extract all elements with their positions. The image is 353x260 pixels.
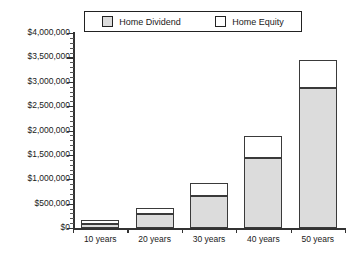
y-tick-mark	[67, 131, 74, 132]
y-tick-mark	[67, 82, 74, 83]
y-tick-minor	[70, 218, 75, 219]
y-tick-minor	[70, 101, 75, 102]
y-tick-minor	[70, 145, 75, 146]
x-axis-label: 20 years	[127, 234, 181, 244]
x-tick-mark	[345, 228, 346, 233]
bar-segment-home-equity[interactable]	[244, 136, 282, 158]
y-tick-minor	[70, 92, 75, 93]
x-axis-label: 30 years	[182, 234, 236, 244]
x-tick-mark	[73, 228, 74, 233]
y-tick-minor	[70, 165, 75, 166]
y-tick-minor	[70, 174, 75, 175]
y-tick-minor	[70, 135, 75, 136]
x-axis-label: 10 years	[73, 234, 127, 244]
y-tick-minor	[70, 121, 75, 122]
legend-entry-home-equity: Home Equity	[215, 16, 284, 27]
bar-segment-home-dividend[interactable]	[81, 224, 119, 228]
x-tick-mark	[291, 228, 292, 233]
y-tick-minor	[70, 170, 75, 171]
x-tick-mark	[127, 228, 128, 233]
bar-group[interactable]	[244, 136, 282, 228]
bar-segment-home-equity[interactable]	[190, 183, 228, 196]
y-tick-label: $4,000,000	[27, 27, 70, 37]
y-tick-label: $1,000,000	[27, 173, 70, 183]
y-tick-label: $3,500,000	[27, 51, 70, 61]
bar-segment-home-dividend[interactable]	[244, 158, 282, 228]
y-tick-minor	[70, 87, 75, 88]
y-tick-minor	[70, 184, 75, 185]
bar-group[interactable]	[190, 183, 228, 228]
y-tick-minor	[70, 77, 75, 78]
y-tick-minor	[70, 67, 75, 68]
y-tick-minor	[70, 126, 75, 127]
dividend-swatch-icon	[102, 16, 113, 27]
y-tick-minor	[70, 160, 75, 161]
y-tick-label: $2,000,000	[27, 125, 70, 135]
y-tick-label: $1,500,000	[27, 149, 70, 159]
chart-legend: Home Dividend Home Equity	[84, 11, 302, 32]
y-tick-minor	[70, 53, 75, 54]
bar-segment-home-equity[interactable]	[81, 220, 119, 224]
bar-segment-home-dividend[interactable]	[190, 196, 228, 228]
y-tick-minor	[70, 38, 75, 39]
y-tick-minor	[70, 213, 75, 214]
legend-label-home-equity: Home Equity	[232, 17, 284, 27]
x-axis-line	[73, 228, 345, 230]
y-tick-minor	[70, 62, 75, 63]
y-tick-label: $2,500,000	[27, 100, 70, 110]
y-tick-label: $3,000,000	[27, 76, 70, 86]
y-tick-mark	[67, 106, 74, 107]
y-tick-minor	[70, 43, 75, 44]
y-tick-minor	[70, 194, 75, 195]
bar-group[interactable]	[299, 60, 337, 228]
y-tick-minor	[70, 189, 75, 190]
y-tick-minor	[70, 96, 75, 97]
x-tick-mark	[182, 228, 183, 233]
y-tick-minor	[70, 150, 75, 151]
y-tick-minor	[70, 199, 75, 200]
y-tick-minor	[70, 140, 75, 141]
bar-segment-home-equity[interactable]	[299, 60, 337, 88]
bar-segment-home-equity[interactable]	[136, 208, 174, 214]
y-tick-minor	[70, 48, 75, 49]
x-axis-label: 50 years	[291, 234, 345, 244]
y-tick-minor	[70, 223, 75, 224]
bar-segment-home-dividend[interactable]	[136, 214, 174, 228]
y-tick-mark	[67, 155, 74, 156]
legend-label-home-dividend: Home Dividend	[119, 17, 181, 27]
x-axis-label: 40 years	[236, 234, 290, 244]
y-tick-mark	[67, 204, 74, 205]
bar-segment-home-dividend[interactable]	[299, 88, 337, 228]
legend-entry-home-dividend: Home Dividend	[102, 16, 181, 27]
y-tick-minor	[70, 72, 75, 73]
y-tick-label: $500,000	[35, 198, 70, 208]
y-tick-mark	[67, 57, 74, 58]
equity-swatch-icon	[215, 16, 226, 27]
bar-group[interactable]	[81, 220, 119, 228]
y-tick-mark	[67, 33, 74, 34]
y-tick-mark	[67, 179, 74, 180]
y-tick-minor	[70, 209, 75, 210]
x-tick-mark	[236, 228, 237, 233]
y-tick-minor	[70, 116, 75, 117]
bar-group[interactable]	[136, 208, 174, 228]
y-tick-minor	[70, 111, 75, 112]
stacked-bar-chart: Home Dividend Home Equity $0$500,000$1,0…	[0, 0, 353, 260]
